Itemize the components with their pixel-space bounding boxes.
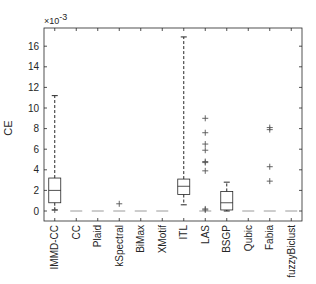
y-tick-label: 10	[28, 103, 40, 114]
y-tick-label: 2	[33, 185, 39, 196]
x-tick-label: Plaid	[92, 225, 103, 247]
y-axis-label: CE	[2, 120, 14, 135]
y-tick-label: 4	[33, 164, 39, 175]
x-tick-label: kSpectral	[114, 225, 125, 267]
y-tick-label: 14	[28, 61, 40, 72]
y-tick-label: 16	[28, 41, 40, 52]
x-tick-label: BSGP	[221, 225, 232, 253]
x-tick-label: XMotif	[157, 225, 168, 254]
box-immd-cc	[49, 96, 61, 213]
y-axis-multiplier: ×10-3	[44, 12, 67, 26]
x-tick-label: fuzzyBiclust	[286, 225, 297, 278]
y-axis-ticks: 0246810121416	[28, 41, 302, 217]
x-tick-label: IMMD-CC	[49, 225, 60, 269]
x-tick-label: BiMax	[135, 225, 146, 253]
x-tick-label: LAS	[200, 225, 211, 244]
y-tick-label: 8	[33, 123, 39, 134]
y-tick-label: 12	[28, 82, 40, 93]
y-tick-label: 6	[33, 144, 39, 155]
box-itl	[178, 37, 190, 205]
x-tick-label: CC	[71, 225, 82, 239]
x-axis-ticks: IMMD-CCCCPlaidkSpectralBiMaxXMotifITLLAS…	[49, 28, 297, 278]
plot-area	[44, 28, 302, 221]
x-tick-label: ITL	[178, 225, 189, 240]
box-plot-chart: 0246810121416 IMMD-CCCCPlaidkSpectralBiM…	[0, 0, 316, 284]
axes-frame	[44, 28, 302, 221]
box-kspectral	[113, 201, 125, 211]
x-tick-label: Fabia	[264, 225, 275, 250]
x-tick-label: Qubic	[243, 225, 254, 251]
y-tick-label: 0	[33, 206, 39, 217]
box-fabia	[264, 125, 276, 211]
box-las	[199, 115, 211, 213]
box-bsgp	[221, 182, 233, 211]
